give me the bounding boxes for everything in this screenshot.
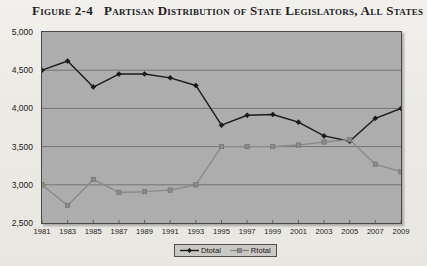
data-point-rtotal <box>296 143 300 147</box>
y-axis-tick-label: 5,000 <box>12 27 33 37</box>
data-point-dtotal <box>399 106 402 111</box>
series-line-rtotal <box>42 140 401 206</box>
figure-container: Figure 2-4Partisan Distribution of State… <box>0 0 427 266</box>
y-axis-labels: 2,5003,0003,5004,0004,5005,000 <box>0 31 38 224</box>
x-axis-tick-label: 1997 <box>239 227 256 236</box>
data-point-rtotal <box>194 183 198 187</box>
figure-label: Figure 2-4 <box>32 3 93 18</box>
data-point-rtotal <box>219 144 223 148</box>
data-point-dtotal <box>168 75 173 80</box>
data-point-rtotal <box>168 188 172 192</box>
plot-area <box>41 31 402 224</box>
data-point-rtotal <box>142 189 146 193</box>
x-axis-tick-label: 2005 <box>341 227 358 236</box>
data-point-rtotal <box>91 177 95 181</box>
legend-marker-square-icon <box>230 246 249 255</box>
data-point-dtotal <box>245 113 250 118</box>
data-point-rtotal <box>399 170 401 174</box>
x-axis-tick-label: 2007 <box>367 227 384 236</box>
x-axis-tick-label: 1995 <box>213 227 230 236</box>
data-point-rtotal <box>322 140 326 144</box>
x-axis-tick-label: 1991 <box>162 227 179 236</box>
x-axis-tick-label: 1981 <box>34 227 51 236</box>
legend-marker-diamond-icon <box>180 246 199 255</box>
line-chart <box>42 32 401 223</box>
x-axis-tick-label: 1985 <box>85 227 102 236</box>
data-point-dtotal <box>296 120 301 125</box>
legend-item-dtotal[interactable]: Dtotal <box>180 246 221 255</box>
y-axis-tick-label: 4,000 <box>12 103 33 113</box>
figure-caption: Figure 2-4Partisan Distribution of State… <box>32 3 419 19</box>
x-axis-tick-label: 2003 <box>316 227 333 236</box>
y-axis-tick-label: 2,500 <box>12 218 33 228</box>
legend-label: Dtotal <box>201 247 221 255</box>
data-point-rtotal <box>65 203 69 207</box>
data-point-dtotal <box>142 72 147 77</box>
x-axis-tick-label: 1999 <box>264 227 281 236</box>
x-axis-labels: 1981198319851987198919911993199519971999… <box>41 227 402 241</box>
y-axis-tick-label: 4,500 <box>12 65 33 75</box>
chart-legend: DtotalRtotal <box>174 244 277 257</box>
data-point-dtotal <box>270 112 275 117</box>
data-point-rtotal <box>373 162 377 166</box>
data-point-rtotal <box>271 144 275 148</box>
data-point-dtotal <box>322 133 327 138</box>
x-axis-tick-label: 1987 <box>110 227 127 236</box>
x-axis-tick-label: 1993 <box>187 227 204 236</box>
legend-item-rtotal[interactable]: Rtotal <box>230 246 271 255</box>
x-axis-tick-label: 1989 <box>136 227 153 236</box>
data-point-rtotal <box>245 144 249 148</box>
data-point-dtotal <box>116 72 121 77</box>
x-axis-tick-label: 2009 <box>393 227 410 236</box>
y-axis-tick-label: 3,000 <box>12 180 33 190</box>
x-axis-tick-label: 2001 <box>290 227 307 236</box>
page-title: Partisan Distribution of State Legislato… <box>104 3 423 18</box>
data-point-rtotal <box>42 183 44 187</box>
legend-label: Rtotal <box>251 247 271 255</box>
x-axis-tick-label: 1983 <box>59 227 76 236</box>
data-point-dtotal <box>42 68 45 73</box>
data-point-rtotal <box>117 190 121 194</box>
y-axis-tick-label: 3,500 <box>12 142 33 152</box>
data-point-rtotal <box>348 138 352 142</box>
series-line-dtotal <box>42 61 401 141</box>
